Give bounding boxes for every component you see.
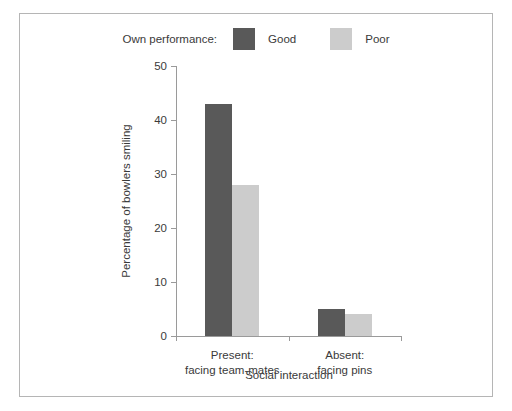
plot-area: 01020304050 Present:facing team-matesAbs… <box>176 66 401 336</box>
x-category-label-line: Absent: <box>317 348 372 363</box>
chart-legend: Own performance: Good Poor <box>20 28 492 50</box>
y-axis-title: Percentage of bowlers smiling <box>120 0 136 66</box>
x-category-label-line: Present: <box>185 348 280 363</box>
bar-good-0 <box>205 104 232 336</box>
y-tick-mark <box>171 120 176 121</box>
y-tick-label: 50 <box>154 60 167 72</box>
legend-swatch-good <box>233 28 255 50</box>
legend-label-poor: Poor <box>365 33 389 45</box>
y-tick-mark <box>171 282 176 283</box>
y-axis-line <box>176 66 177 337</box>
y-tick-label: 30 <box>154 168 167 180</box>
legend-entry-poor: Poor <box>330 28 389 50</box>
legend-swatch-poor <box>330 28 352 50</box>
y-tick-label: 10 <box>154 276 167 288</box>
y-tick-mark <box>171 66 176 67</box>
bar-poor-1 <box>345 314 372 336</box>
legend-entry-good: Good <box>233 28 296 50</box>
y-tick-label: 40 <box>154 114 167 126</box>
y-tick-mark <box>171 174 176 175</box>
y-tick-label: 0 <box>161 330 167 342</box>
x-tick-mark <box>289 336 290 341</box>
bar-good-1 <box>318 309 345 336</box>
y-tick-mark <box>171 228 176 229</box>
chart-figure: Own performance: Good Poor Percentage of… <box>19 13 493 397</box>
legend-title: Own performance: <box>122 33 217 45</box>
y-tick-label: 20 <box>154 222 167 234</box>
x-tick-mark <box>176 336 177 341</box>
x-tick-mark <box>401 336 402 341</box>
legend-label-good: Good <box>268 33 296 45</box>
x-axis-title: Social interaction <box>176 369 402 381</box>
bar-poor-0 <box>232 185 259 336</box>
